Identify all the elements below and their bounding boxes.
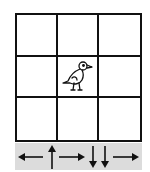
grid-cell-2-0[interactable] (17, 98, 58, 140)
grid-cell-2-1[interactable] (58, 98, 99, 140)
grid-cell-2-2[interactable] (99, 98, 140, 140)
grid-cell-1-1[interactable] (58, 57, 99, 99)
arrow-left-icon (18, 150, 44, 164)
game-grid (15, 13, 142, 142)
arrow-down-icon (88, 146, 98, 168)
arrow-right-icon (59, 150, 85, 164)
grid-cell-0-1[interactable] (58, 15, 99, 57)
grid-cell-1-2[interactable] (99, 57, 140, 99)
arrow-right-icon (113, 150, 139, 164)
grid-cell-0-0[interactable] (17, 15, 58, 57)
action-sequence-bar (15, 143, 142, 170)
grid-cell-0-2[interactable] (99, 15, 140, 57)
arrow-down-icon (100, 146, 110, 168)
grid-cell-1-0[interactable] (17, 57, 58, 99)
bird-icon (61, 60, 95, 92)
arrow-up-icon (47, 145, 57, 169)
